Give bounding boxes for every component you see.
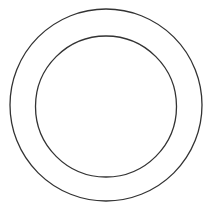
- concentric-circles-diagram: [0, 0, 212, 209]
- inner-circle: [36, 36, 177, 177]
- outer-circle: [10, 9, 202, 201]
